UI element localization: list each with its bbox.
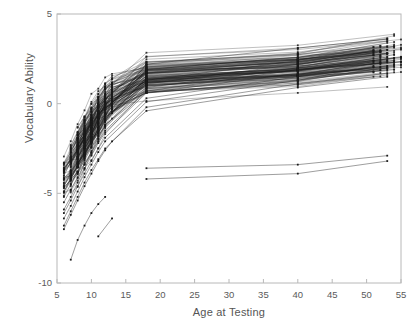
chart-figure: Vocabulary Ability Age at Testing 50-5-1…	[0, 0, 415, 326]
x-tick-label: 35	[248, 289, 278, 300]
y-tick-label: 0	[22, 98, 52, 109]
x-tick-label: 30	[214, 289, 244, 300]
x-tick-label: 20	[145, 289, 175, 300]
y-tick-label: 5	[22, 8, 52, 19]
x-tick-label: 10	[76, 289, 106, 300]
x-tick-label: 45	[317, 289, 347, 300]
x-tick-label: 15	[111, 289, 141, 300]
x-tick-label: 40	[283, 289, 313, 300]
y-tick-label: -10	[22, 277, 52, 288]
y-tick-label: -5	[22, 187, 52, 198]
x-tick-label: 5	[42, 289, 72, 300]
x-tick-label: 55	[386, 289, 415, 300]
plot-canvas	[0, 0, 415, 326]
x-tick-label: 50	[352, 289, 382, 300]
x-tick-label: 25	[180, 289, 210, 300]
x-axis-label: Age at Testing	[57, 306, 401, 318]
